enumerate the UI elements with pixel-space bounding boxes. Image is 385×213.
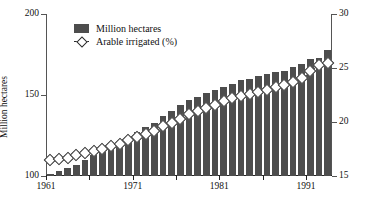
y-axis-left-tick-label: 100	[25, 171, 39, 181]
y-axis-right-tick-label: 30	[339, 9, 349, 19]
x-axis-tick	[219, 176, 220, 180]
legend-swatch-bar-icon	[74, 24, 89, 33]
x-axis-tick-label: 1971	[123, 182, 142, 192]
y-axis-right-tick-label: 20	[339, 117, 349, 127]
x-axis-tick-label: 1981	[210, 182, 229, 192]
y-axis-left-tick	[41, 95, 46, 96]
y-axis-right-tick	[332, 122, 337, 123]
y-axis-right-tick-label: 25	[339, 63, 349, 73]
chart-legend: Million hectares Arable irrigated (%)	[74, 22, 177, 48]
x-axis-tick	[263, 176, 264, 180]
y-axis-left-tick-label: 150	[25, 90, 39, 100]
x-axis-tick	[306, 176, 307, 180]
x-axis-tick	[133, 176, 134, 180]
y-axis-right-tick-label: 15	[339, 171, 349, 181]
x-axis-tick	[176, 176, 177, 180]
y-axis-right-tick	[332, 68, 337, 69]
x-axis-tick	[46, 176, 47, 180]
y-axis-left-title: Million hectares	[0, 76, 9, 138]
chart-figure: Million hectares Arable irrigated (%) 10…	[0, 0, 385, 213]
x-axis-tick-label: 1991	[297, 182, 316, 192]
x-axis-tick	[89, 176, 90, 180]
y-axis-right-tick	[332, 176, 337, 177]
legend-item-arable-irrigated: Arable irrigated (%)	[74, 35, 177, 48]
legend-swatch-line-diamond-icon	[74, 37, 89, 46]
legend-label-arable-irrigated: Arable irrigated (%)	[96, 37, 177, 47]
y-axis-left-tick-label: 200	[25, 9, 39, 19]
y-axis-right-tick	[332, 14, 337, 15]
y-axis-left-tick	[41, 14, 46, 15]
legend-label-million-hectares: Million hectares	[96, 24, 161, 34]
legend-item-million-hectares: Million hectares	[74, 22, 177, 35]
x-axis-tick-label: 1961	[37, 182, 56, 192]
